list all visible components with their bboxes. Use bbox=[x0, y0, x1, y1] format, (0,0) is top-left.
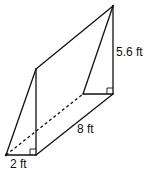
hidden-lateral-edge bbox=[6, 94, 83, 155]
length-label: 8 ft bbox=[77, 122, 94, 136]
front-hypotenuse-edge bbox=[6, 69, 36, 155]
back-right-angle-marker bbox=[107, 88, 113, 94]
bottom-right-lateral-edge bbox=[36, 94, 113, 155]
back-hypotenuse-edge bbox=[83, 6, 113, 94]
front-right-angle-marker bbox=[30, 149, 36, 155]
vertex-dot bbox=[5, 154, 7, 156]
top-lateral-edge bbox=[36, 6, 113, 69]
vertex-dot bbox=[112, 5, 114, 7]
height-label: 5.6 ft bbox=[116, 45, 143, 59]
base-label: 2 ft bbox=[10, 157, 27, 170]
triangular-prism-diagram: 5.6 ft 8 ft 2 ft bbox=[0, 0, 150, 170]
